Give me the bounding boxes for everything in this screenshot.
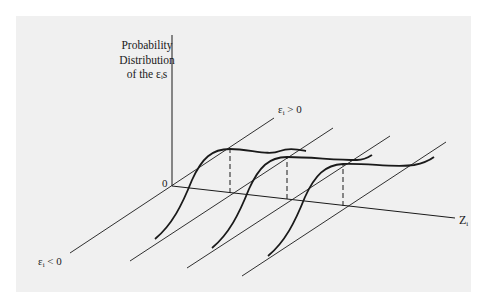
- probability-distribution-diagram: [0, 0, 486, 305]
- origin-label: 0: [162, 177, 168, 190]
- epsilon-relation: < 0: [45, 255, 62, 267]
- epsilon-axis-line-4: [242, 142, 446, 276]
- y-axis-label: Probability Distribution of the εᵢs: [104, 38, 190, 82]
- distribution-curve-2: [212, 155, 372, 248]
- y-axis-label-line-2: Distribution: [104, 53, 190, 68]
- z-axis-label: Zi: [459, 214, 468, 227]
- z-axis: [172, 186, 455, 218]
- epsilon-positive-label: εi > 0: [278, 103, 302, 116]
- epsilon-relation: > 0: [285, 103, 302, 115]
- z-axis-label-sub: i: [466, 220, 468, 228]
- y-axis-label-line-3: of the εᵢs: [104, 67, 190, 82]
- y-axis-label-line-1: Probability: [104, 38, 190, 53]
- epsilon-negative-label: εi < 0: [38, 255, 62, 268]
- epsilon-axis-line-2: [130, 128, 333, 261]
